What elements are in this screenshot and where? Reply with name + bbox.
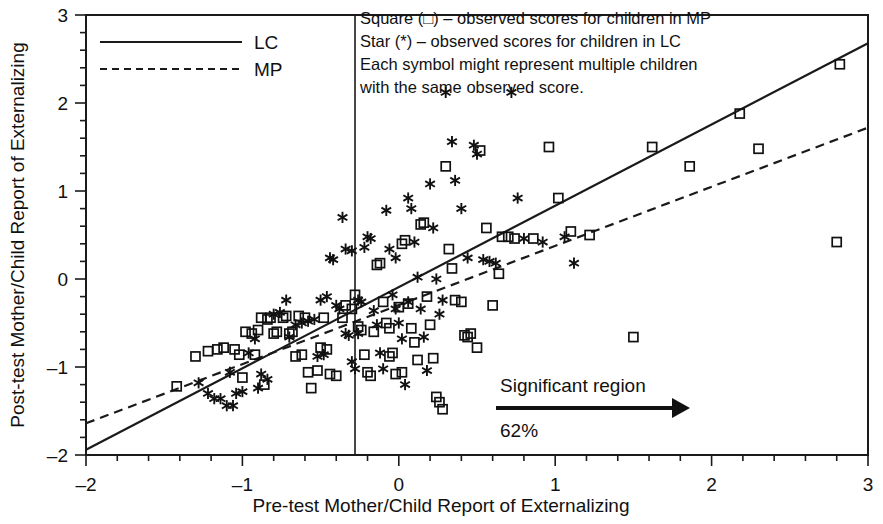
legend-label-mp: MP [254, 59, 283, 80]
x-tick-label: 1 [550, 474, 561, 495]
note-line: Each symbol might represent multiple chi… [360, 55, 698, 73]
x-tick-label: –2 [75, 474, 96, 495]
legend-label-lc: LC [254, 32, 278, 53]
x-tick-label: 0 [394, 474, 405, 495]
significant-region-percent: 62% [500, 420, 538, 441]
x-axis-title: Pre-test Mother/Child Report of External… [253, 495, 630, 516]
chart-root: –2–10123 –2–10123 LCMP Square (□) – obse… [0, 0, 883, 524]
scatter-plot: –2–10123 –2–10123 LCMP Square (□) – obse… [0, 0, 883, 524]
significant-region-label: Significant region [500, 375, 646, 396]
note-line: with the same observed score. [359, 78, 584, 96]
y-tick-label: 3 [57, 5, 68, 26]
y-tick-label: 2 [57, 93, 68, 114]
x-tick-label: –1 [232, 474, 253, 495]
y-tick-label: 0 [57, 269, 68, 290]
x-tick-label: 2 [706, 474, 717, 495]
y-tick-label: 1 [57, 181, 68, 202]
y-tick-label: –1 [47, 357, 68, 378]
x-tick-label: 3 [863, 474, 874, 495]
y-axis-title: Post-test Mother/Child Report of Externa… [7, 42, 28, 427]
note-line: Star (*) – observed scores for children … [360, 32, 681, 50]
note-line: Square (□) – observed scores for childre… [360, 9, 711, 27]
y-tick-label: –2 [47, 445, 68, 466]
